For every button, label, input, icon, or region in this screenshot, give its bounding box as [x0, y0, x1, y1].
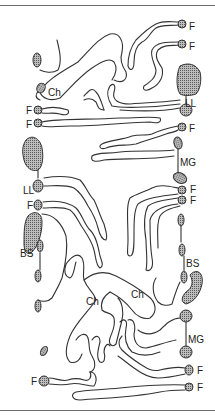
label-f: F	[189, 22, 195, 32]
label-ch: Ch	[86, 297, 99, 307]
label-f: F	[189, 42, 195, 52]
label-f: F	[189, 124, 195, 134]
label-bs: BS	[186, 259, 199, 269]
label-ch: Ch	[48, 88, 61, 98]
label-ll: LL	[185, 99, 196, 109]
label-bs: BS	[20, 249, 33, 259]
label-f: F	[197, 366, 203, 376]
label-f: F	[26, 120, 32, 130]
label-ch: Ch	[131, 290, 144, 300]
label-mg: MG	[180, 158, 196, 168]
label-f: F	[190, 185, 196, 195]
label-f: F	[197, 383, 203, 393]
follicle-blob	[33, 53, 41, 67]
label-f: F	[31, 377, 37, 387]
label-ll: LL	[23, 186, 34, 196]
label-f: F	[26, 106, 32, 116]
tube	[40, 40, 60, 72]
label-f: F	[190, 196, 196, 206]
label-mg: MG	[188, 335, 204, 345]
label-f: F	[27, 201, 33, 211]
